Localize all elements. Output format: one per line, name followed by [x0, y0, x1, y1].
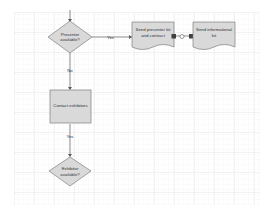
connection-handle[interactable] — [172, 34, 177, 39]
decision-label-line1: Exhibitor — [62, 166, 79, 171]
decision-label-line1: Presenter — [61, 32, 80, 37]
document-label-line1: Send informational — [196, 27, 232, 32]
edge-label-no: No — [67, 68, 73, 73]
process-label: Contact exhibitors — [53, 103, 87, 108]
edge-label-yes: Yes — [66, 134, 73, 139]
process-contact-exhibitors[interactable]: Contact exhibitors — [50, 90, 91, 123]
decision-label-line2: available? — [60, 37, 80, 42]
document-label-line1: Send presenter kit — [136, 27, 172, 32]
edge-label-yes: Yes — [107, 35, 114, 40]
decision-label-line2: available? — [60, 172, 80, 177]
connection-point-icon[interactable] — [180, 35, 184, 39]
document-label-line2: and contract — [141, 33, 165, 38]
diagram-canvas: Presenter available? Yes No Send present… — [0, 0, 269, 213]
